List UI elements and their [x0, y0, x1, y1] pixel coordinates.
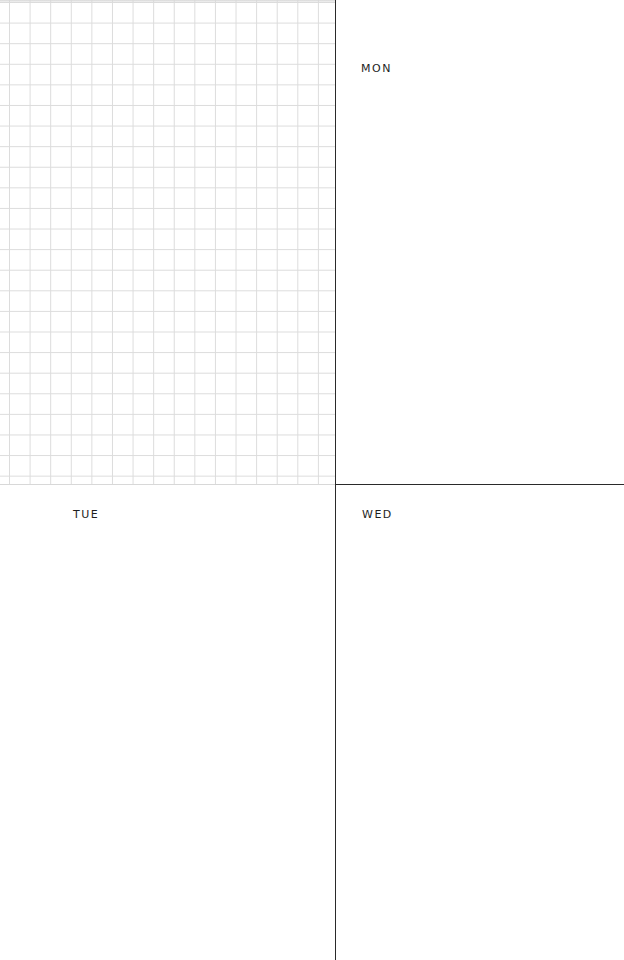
- day-label-wed: WED: [362, 508, 393, 521]
- day-label-mon: MON: [361, 62, 392, 75]
- page-top-shadow: [0, 0, 336, 3]
- day-panel-tue: [0, 485, 335, 960]
- notes-grid-panel: [0, 0, 336, 485]
- day-label-tue: TUE: [73, 508, 99, 521]
- vertical-divider: [335, 0, 336, 960]
- horizontal-divider: [336, 484, 624, 485]
- day-panel-wed: [336, 485, 624, 960]
